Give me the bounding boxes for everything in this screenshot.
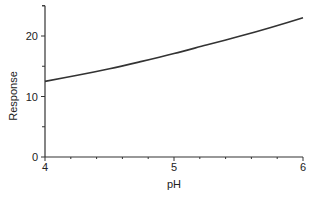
y-axis-label: Response: [7, 71, 19, 121]
y-tick-label: 20: [26, 30, 38, 42]
y-tick-label: 10: [26, 91, 38, 103]
x-tick-label: 5: [171, 161, 177, 173]
y-tick-label: 0: [32, 151, 38, 163]
plot-area: [45, 18, 303, 82]
x-tick-label: 4: [42, 161, 48, 173]
x-axis-label: pH: [167, 178, 181, 190]
x-axis: 456: [42, 157, 306, 173]
line-chart: 01020 456 pH Response: [0, 0, 319, 203]
y-axis: 01020: [26, 6, 45, 163]
response-curve: [45, 18, 303, 82]
x-tick-label: 6: [300, 161, 306, 173]
